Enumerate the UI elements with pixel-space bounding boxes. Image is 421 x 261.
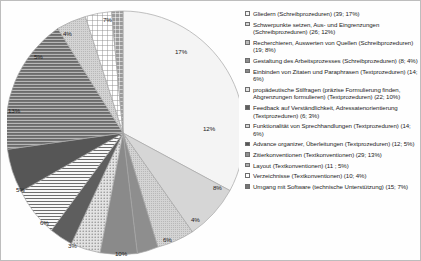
legend-swatch-icon xyxy=(245,163,250,168)
legend-swatch-icon xyxy=(245,22,250,27)
legend-swatch-icon xyxy=(245,124,250,129)
legend-swatch-icon xyxy=(245,87,250,92)
legend-item-zitate: Einbinden von Zitaten und Paraphrasen (T… xyxy=(245,68,419,83)
legend-label: Feedback auf Verständlichkeit, Adressate… xyxy=(253,104,419,119)
legend-swatch-icon xyxy=(245,173,250,178)
legend-item-zitierkonventionen: Zitierkonventionen (Textkonventionen) (2… xyxy=(245,151,419,159)
legend-label: Umgang mit Software (technische Unterstü… xyxy=(253,183,408,191)
slice-label-12: 12% xyxy=(203,125,215,132)
legend-label: Zitierkonventionen (Textkonventionen) (2… xyxy=(253,151,382,159)
legend-label: Gestaltung des Arbeitsprozesses (Schreib… xyxy=(253,57,418,65)
slice-label-6a: 6% xyxy=(163,236,172,243)
legend-swatch-icon xyxy=(245,105,250,110)
legend-label: Recherchieren, Auswerten von Quellen (Sc… xyxy=(253,39,419,54)
legend-item-advance-organizer: Advance organizer, Überleitungen (Textpr… xyxy=(245,140,419,148)
legend-label: Advance organizer, Überleitungen (Textpr… xyxy=(253,140,414,148)
legend-swatch-icon xyxy=(245,58,250,63)
slice-label-3: 3% xyxy=(68,242,77,249)
pie-plot-area: 17% 12% 8% 4% 6% 10% 3% 6% 5% 13% 5% 4% … xyxy=(7,5,239,259)
slice-label-10: 10% xyxy=(115,250,127,257)
slice-label-17: 17% xyxy=(175,48,187,55)
legend-swatch-icon xyxy=(245,142,250,147)
legend-item-verzeichnisse: Verzeichnisse (Textkonventionen) (10; 4%… xyxy=(245,172,419,180)
legend-item-gestaltung: Gestaltung des Arbeitsprozesses (Schreib… xyxy=(245,57,419,65)
pie-chart-figure: 17% 12% 8% 4% 6% 10% 3% 6% 5% 13% 5% 4% … xyxy=(0,0,421,261)
legend-item-schwerpunkte: Schwerpunkte setzen, Aus- und Eingrenzun… xyxy=(245,21,419,36)
slice-label-8: 8% xyxy=(213,184,222,191)
slice-label-6b: 6% xyxy=(40,219,49,226)
slice-label-5b: 5% xyxy=(34,53,43,60)
legend-label: Gliedern (Schreibprozeduren) (39; 17%) xyxy=(253,10,360,18)
legend-label: Einbinden von Zitaten und Paraphrasen (T… xyxy=(253,68,419,83)
slice-label-5a: 5% xyxy=(16,186,25,193)
slice-label-4a: 4% xyxy=(191,216,200,223)
legend-label: propädeutische Stilfragen (präzise Formu… xyxy=(253,86,419,101)
legend-label: Verzeichnisse (Textkonventionen) (10; 4%… xyxy=(253,172,366,180)
legend-label: Schwerpunkte setzen, Aus- und Eingrenzun… xyxy=(253,21,419,36)
chart-legend: Gliedern (Schreibprozeduren) (39; 17%) S… xyxy=(245,10,419,193)
legend-item-software: Umgang mit Software (technische Unterstü… xyxy=(245,183,419,191)
legend-swatch-icon xyxy=(245,69,250,74)
slice-label-4b: 4% xyxy=(63,30,72,37)
slice-label-7: 7% xyxy=(103,16,112,23)
legend-swatch-icon xyxy=(245,11,250,16)
legend-item-stilfragen: propädeutische Stilfragen (präzise Formu… xyxy=(245,86,419,101)
legend-label: Funktionalität von Sprechhandlungen (Tex… xyxy=(253,122,419,137)
legend-item-funktionalitaet: Funktionalität von Sprechhandlungen (Tex… xyxy=(245,122,419,137)
legend-swatch-icon xyxy=(245,184,250,189)
legend-item-gliedern: Gliedern (Schreibprozeduren) (39; 17%) xyxy=(245,10,419,18)
legend-swatch-icon xyxy=(245,40,250,45)
legend-item-recherchieren: Recherchieren, Auswerten von Quellen (Sc… xyxy=(245,39,419,54)
legend-label: Layout (Textkonventionen) (11 ; 5%) xyxy=(253,162,349,170)
slice-label-13: 13% xyxy=(8,107,20,114)
legend-item-feedback: Feedback auf Verständlichkeit, Adressate… xyxy=(245,104,419,119)
legend-item-layout: Layout (Textkonventionen) (11 ; 5%) xyxy=(245,162,419,170)
legend-swatch-icon xyxy=(245,152,250,157)
